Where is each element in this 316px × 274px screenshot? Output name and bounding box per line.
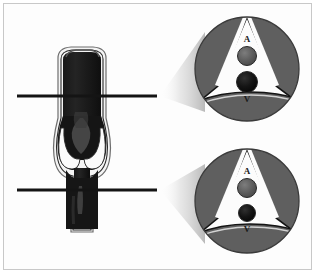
artery-label-lower: A [244, 166, 251, 176]
illustration-canvas: A V A V [0, 0, 316, 274]
anatomy-illustration-svg: A V A V [0, 0, 316, 274]
venous-valve-longitudinal-section [54, 47, 111, 232]
artery-label-upper: A [244, 34, 251, 44]
figure-root: A V A V [0, 0, 316, 274]
artery-lower [238, 179, 257, 198]
lumen-flow-highlight-upper [74, 112, 89, 128]
vein-label-lower: V [244, 224, 251, 234]
vein-label-upper: V [244, 94, 251, 104]
artery-upper [238, 47, 257, 66]
lower-lumen-highlight-2 [72, 196, 76, 224]
vein-upper [237, 72, 258, 93]
vein-lower [239, 205, 256, 222]
